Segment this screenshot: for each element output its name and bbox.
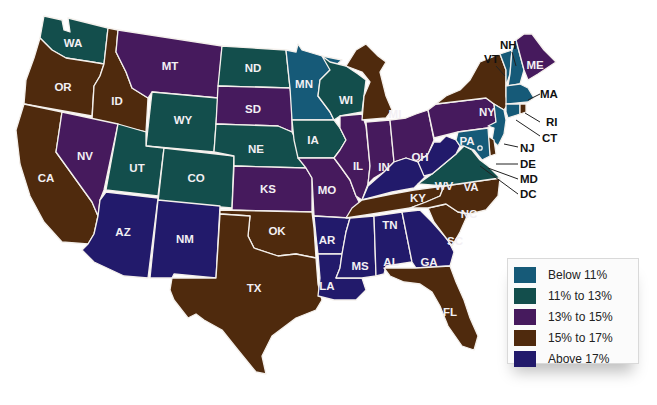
label-OH: OH bbox=[411, 151, 428, 163]
legend-label: 13% to 15% bbox=[548, 310, 613, 324]
label-WI: WI bbox=[339, 94, 353, 106]
map-legend: Below 11% 11% to 13% 13% to 15% 15% to 1… bbox=[507, 258, 639, 364]
legend-item-11-to-13: 11% to 13% bbox=[514, 287, 612, 304]
state-CT bbox=[506, 104, 520, 118]
label-PA: PA bbox=[459, 135, 474, 147]
label-TN: TN bbox=[382, 219, 397, 231]
label-IN: IN bbox=[378, 161, 390, 173]
label-MT: MT bbox=[162, 60, 179, 72]
label-CT: CT bbox=[542, 132, 557, 144]
label-VA: VA bbox=[463, 181, 478, 193]
label-AL: AL bbox=[383, 256, 398, 268]
label-CO: CO bbox=[187, 172, 204, 184]
label-OR: OR bbox=[54, 81, 72, 93]
label-NJ: NJ bbox=[520, 142, 535, 154]
label-WY: WY bbox=[174, 114, 193, 126]
label-WV: WV bbox=[435, 180, 454, 192]
label-IL: IL bbox=[353, 160, 363, 172]
state-FL bbox=[384, 266, 478, 350]
legend-item-13-to-15: 13% to 15% bbox=[514, 308, 613, 325]
label-MD: MD bbox=[520, 173, 538, 185]
label-VT: VT bbox=[484, 53, 499, 65]
label-KY: KY bbox=[410, 192, 426, 204]
label-DE: DE bbox=[520, 158, 536, 170]
label-IA: IA bbox=[307, 134, 319, 146]
label-TX: TX bbox=[247, 282, 262, 294]
label-KS: KS bbox=[260, 183, 276, 195]
legend-item-15-to-17: 15% to 17% bbox=[514, 329, 613, 346]
label-OK: OK bbox=[268, 225, 286, 237]
label-NC: NC bbox=[461, 208, 478, 220]
label-SD: SD bbox=[245, 103, 261, 115]
label-UT: UT bbox=[129, 162, 144, 174]
label-MA: MA bbox=[540, 88, 558, 100]
legend-label: Below 11% bbox=[548, 268, 607, 282]
label-GA: GA bbox=[420, 256, 437, 268]
legend-swatch bbox=[514, 309, 536, 325]
state-DC bbox=[478, 146, 482, 150]
legend-swatch bbox=[514, 351, 536, 367]
label-NH: NH bbox=[500, 39, 517, 51]
label-MN: MN bbox=[295, 78, 313, 90]
state-MA bbox=[506, 84, 534, 104]
legend-item-below-11: Below 11% bbox=[514, 266, 607, 283]
label-MO: MO bbox=[318, 184, 337, 196]
label-CA: CA bbox=[38, 172, 55, 184]
label-NE: NE bbox=[248, 143, 264, 155]
label-MI: MI bbox=[389, 108, 402, 120]
state-RI bbox=[520, 104, 526, 114]
label-FL: FL bbox=[443, 306, 457, 318]
label-DC: DC bbox=[520, 188, 537, 200]
legend-label: 15% to 17% bbox=[548, 331, 613, 345]
label-WA: WA bbox=[64, 37, 83, 49]
legend-label: 11% to 13% bbox=[548, 289, 612, 303]
label-AR: AR bbox=[319, 234, 336, 246]
legend-label: Above 17% bbox=[548, 352, 609, 366]
label-NM: NM bbox=[176, 233, 194, 245]
legend-swatch bbox=[514, 267, 536, 283]
legend-swatch bbox=[514, 330, 536, 346]
label-SC: SC bbox=[447, 235, 463, 247]
label-ND: ND bbox=[245, 62, 262, 74]
label-ME: ME bbox=[526, 59, 544, 71]
label-AZ: AZ bbox=[115, 226, 130, 238]
label-MS: MS bbox=[351, 260, 369, 272]
label-LA: LA bbox=[319, 280, 334, 292]
legend-item-above-17: Above 17% bbox=[514, 350, 609, 367]
legend-swatch bbox=[514, 288, 536, 304]
label-RI: RI bbox=[546, 116, 558, 128]
label-ID: ID bbox=[111, 95, 123, 107]
label-NY: NY bbox=[479, 106, 495, 118]
label-NV: NV bbox=[77, 150, 93, 162]
